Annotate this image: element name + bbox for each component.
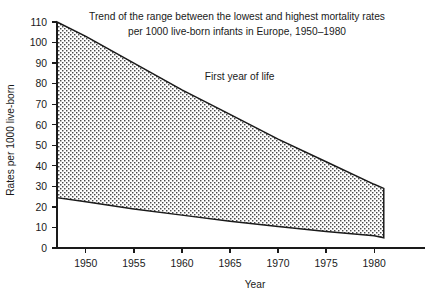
range-band (57, 22, 384, 238)
y-tick-label: 50 (35, 140, 47, 151)
x-tick-label: 1975 (315, 258, 338, 269)
x-tick-label: 1970 (266, 258, 289, 269)
y-axis-title: Rates per 1000 live-born (5, 84, 16, 196)
y-tick-label: 80 (35, 78, 47, 89)
chart-container: Trend of the range between the lowest an… (0, 0, 437, 292)
x-tick-label: 1950 (74, 258, 97, 269)
x-tick-label: 1965 (218, 258, 241, 269)
y-tick-label: 40 (35, 161, 47, 172)
y-tick-label: 100 (30, 37, 48, 48)
y-tick-label: 60 (35, 120, 47, 131)
x-tick-label: 1980 (363, 258, 386, 269)
y-tick-label: 0 (41, 243, 47, 254)
x-axis-ticks: 1950195519601965197019751980 (74, 248, 386, 269)
y-axis-ticks: 0102030405060708090100110 (30, 17, 57, 254)
y-tick-label: 10 (35, 222, 47, 233)
y-tick-label: 20 (35, 202, 47, 213)
x-tick-label: 1960 (170, 258, 193, 269)
mortality-range-area-chart: Trend of the range between the lowest an… (0, 0, 437, 292)
x-axis-title: Year (245, 279, 266, 290)
y-tick-label: 30 (35, 181, 47, 192)
y-tick-label: 90 (35, 58, 47, 69)
chart-title-line2: per 1000 live-born infants in Europe, 19… (128, 26, 346, 37)
y-tick-label: 110 (30, 17, 47, 28)
y-tick-label: 70 (35, 99, 47, 110)
x-tick-label: 1955 (122, 258, 145, 269)
annotation-first-year-of-life: First year of life (205, 71, 275, 82)
chart-title-line1: Trend of the range between the lowest an… (89, 11, 385, 22)
